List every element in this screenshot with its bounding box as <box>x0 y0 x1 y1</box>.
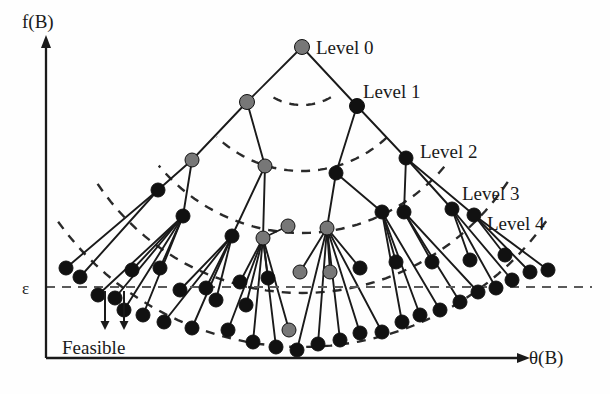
level-label-3: Level 3 <box>462 183 520 204</box>
tree-node-n3h[interactable] <box>445 202 459 216</box>
tree-node-n4o[interactable] <box>269 340 283 354</box>
level-label-4: Level 4 <box>487 213 545 234</box>
tree-node-n4al[interactable] <box>261 271 275 285</box>
tree-node-n3e[interactable] <box>320 221 334 235</box>
tree-node-n4am[interactable] <box>233 275 247 289</box>
tree-node-n4h[interactable] <box>136 308 150 322</box>
tree-node-n3a[interactable] <box>151 183 165 197</box>
level-label-1: Level 1 <box>363 81 421 102</box>
tree-node-n4p[interactable] <box>290 343 304 357</box>
tree-node-n1a[interactable] <box>240 95 255 110</box>
tree-node-n3d[interactable] <box>256 231 270 245</box>
tree-node-n4w[interactable] <box>413 308 427 322</box>
tree-node-n2b[interactable] <box>258 159 272 173</box>
tree-node-n4z[interactable] <box>471 285 485 299</box>
tree-node-n0[interactable] <box>295 40 310 55</box>
tree-node-n4k[interactable] <box>199 281 213 295</box>
tree-node-n4ap[interactable] <box>239 298 253 312</box>
tree-node-n4v[interactable] <box>395 315 409 329</box>
tree-node-n4i[interactable] <box>173 283 187 297</box>
tree-node-n4af[interactable] <box>463 253 477 267</box>
feasible-label: Feasible <box>62 337 125 358</box>
tree-node-n4l[interactable] <box>185 321 199 335</box>
tree-node-n4r[interactable] <box>311 337 325 351</box>
tree-node-n4ac[interactable] <box>523 265 537 279</box>
tree-node-n4t[interactable] <box>353 326 367 340</box>
tree-node-n4f[interactable] <box>153 261 167 275</box>
tree-node-n3g[interactable] <box>397 205 411 219</box>
tree-node-n4ak[interactable] <box>293 265 307 279</box>
y-axis-label: f(B) <box>22 11 54 33</box>
tree-node-n4m[interactable] <box>221 323 235 337</box>
tree-node-n4u[interactable] <box>375 325 389 339</box>
tree-node-n4aa[interactable] <box>489 281 503 295</box>
tree-node-n4aj[interactable] <box>323 265 337 279</box>
tree-node-n4ab[interactable] <box>505 273 519 287</box>
figure-canvas: f(B) θ(B) ε Feasible Level 0Level 1Level… <box>0 0 610 394</box>
tree-diagram-svg: f(B) θ(B) ε Feasible Level 0Level 1Level… <box>0 0 610 394</box>
tree-node-n2a[interactable] <box>185 153 199 167</box>
tree-node-n4d[interactable] <box>108 291 122 305</box>
tree-node-n4n[interactable] <box>246 335 260 349</box>
tree-node-n4c[interactable] <box>91 288 105 302</box>
level-label-0: Level 0 <box>316 37 374 58</box>
tree-node-n4e[interactable] <box>125 263 139 277</box>
tree-node-n4y[interactable] <box>453 295 467 309</box>
tree-node-n4ah[interactable] <box>389 255 403 269</box>
tree-node-n4ad[interactable] <box>541 263 555 277</box>
tree-node-n3c[interactable] <box>225 229 239 243</box>
tree-node-n4an[interactable] <box>281 219 295 233</box>
tree-node-n4ai[interactable] <box>353 261 367 275</box>
tree-node-n4x[interactable] <box>433 303 447 317</box>
tree-node-n4j[interactable] <box>157 315 171 329</box>
tree-node-n4ao[interactable] <box>209 293 223 307</box>
tree-node-n4ae[interactable] <box>498 248 512 262</box>
epsilon-label: ε <box>22 279 29 298</box>
tree-node-n2c[interactable] <box>329 166 343 180</box>
tree-node-n2d[interactable] <box>399 151 413 165</box>
tree-node-n4q[interactable] <box>282 323 296 337</box>
tree-node-n4a[interactable] <box>59 261 73 275</box>
tree-node-n4b[interactable] <box>73 270 87 284</box>
tree-node-n3f[interactable] <box>375 205 389 219</box>
tree-node-n4ag[interactable] <box>425 255 439 269</box>
tree-node-n3i[interactable] <box>467 208 481 222</box>
level-label-2: Level 2 <box>420 141 478 162</box>
x-axis-label: θ(B) <box>529 347 563 369</box>
tree-node-n4s[interactable] <box>333 333 347 347</box>
tree-node-n3b[interactable] <box>176 209 190 223</box>
